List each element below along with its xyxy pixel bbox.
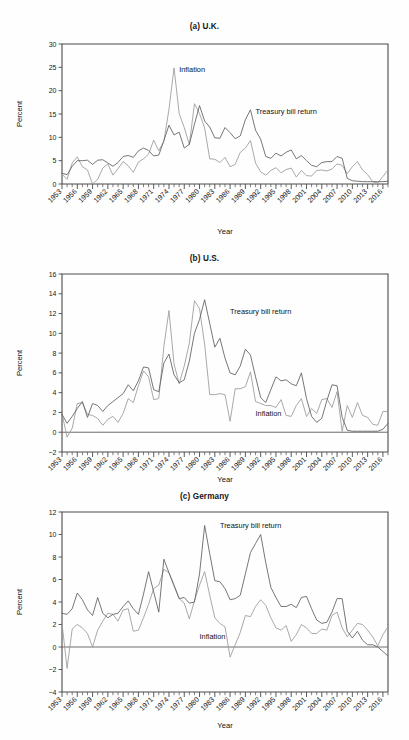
svg-text:1989: 1989 (229, 455, 247, 473)
svg-text:1962: 1962 (92, 695, 110, 713)
svg-text:25: 25 (49, 64, 57, 71)
svg-text:1974: 1974 (153, 695, 171, 713)
svg-text:1980: 1980 (183, 695, 201, 713)
svg-text:1971: 1971 (137, 695, 155, 713)
svg-text:1998: 1998 (275, 455, 293, 473)
svg-text:4: 4 (53, 389, 57, 396)
svg-text:1965: 1965 (107, 695, 125, 713)
svg-text:1953: 1953 (46, 187, 64, 205)
svg-text:2001: 2001 (290, 455, 308, 473)
svg-text:30: 30 (49, 41, 57, 48)
series-line-treasury-bill-return (62, 300, 388, 432)
svg-text:1995: 1995 (260, 455, 278, 473)
series-annotation: Inflation (200, 632, 226, 641)
svg-text:1974: 1974 (153, 187, 171, 205)
svg-text:1998: 1998 (275, 187, 293, 205)
svg-text:10: 10 (49, 134, 57, 141)
svg-text:1977: 1977 (168, 187, 186, 205)
svg-text:0: 0 (53, 429, 57, 436)
svg-text:1986: 1986 (214, 187, 232, 205)
series-annotation: Treasury bill return (220, 521, 281, 530)
chart-panel-uk: (a) U.K. 0510152025301953195619591962196… (0, 22, 409, 254)
series-line-inflation (62, 569, 388, 668)
series-annotation: Inflation (179, 65, 205, 74)
svg-text:1962: 1962 (92, 187, 110, 205)
svg-text:1989: 1989 (229, 695, 247, 713)
svg-text:1965: 1965 (107, 187, 125, 205)
chart-panel-germany: (c) Germany −4−2024681012195319561959196… (0, 492, 409, 740)
svg-text:10: 10 (49, 330, 57, 337)
svg-text:2007: 2007 (321, 455, 339, 473)
svg-text:2004: 2004 (306, 187, 324, 205)
svg-text:2016: 2016 (367, 455, 385, 473)
svg-text:1998: 1998 (275, 695, 293, 713)
svg-text:10: 10 (49, 531, 57, 538)
svg-text:0: 0 (53, 644, 57, 651)
svg-text:1980: 1980 (183, 187, 201, 205)
svg-text:12: 12 (49, 310, 57, 317)
svg-text:1995: 1995 (260, 187, 278, 205)
svg-text:2004: 2004 (306, 455, 324, 473)
svg-text:1974: 1974 (153, 455, 171, 473)
svg-text:1971: 1971 (137, 187, 155, 205)
x-axis-label: Year (217, 227, 233, 236)
svg-text:2013: 2013 (351, 695, 369, 713)
svg-text:2013: 2013 (351, 455, 369, 473)
svg-text:20: 20 (49, 87, 57, 94)
svg-text:1977: 1977 (168, 455, 186, 473)
series-annotation: Treasury bill return (256, 107, 317, 116)
svg-text:1965: 1965 (107, 455, 125, 473)
svg-text:1971: 1971 (137, 455, 155, 473)
y-axis-label: Percent (15, 100, 24, 127)
svg-text:8: 8 (53, 350, 57, 357)
chart-us: −202468101214161953195619591962196519681… (0, 254, 409, 492)
svg-text:1983: 1983 (199, 455, 217, 473)
svg-text:2007: 2007 (321, 695, 339, 713)
svg-text:8: 8 (53, 554, 57, 561)
svg-text:1968: 1968 (122, 187, 140, 205)
svg-text:−2: −2 (49, 666, 57, 673)
svg-text:1962: 1962 (92, 455, 110, 473)
svg-text:2001: 2001 (290, 695, 308, 713)
svg-text:14: 14 (49, 290, 57, 297)
svg-text:2004: 2004 (306, 695, 324, 713)
svg-text:2010: 2010 (336, 695, 354, 713)
svg-text:1959: 1959 (76, 695, 94, 713)
svg-text:1977: 1977 (168, 695, 186, 713)
svg-text:1968: 1968 (122, 455, 140, 473)
svg-text:5: 5 (53, 157, 57, 164)
svg-text:−2: −2 (49, 449, 57, 456)
svg-text:1968: 1968 (122, 695, 140, 713)
chart-panel-us: (b) U.S. −202468101214161953195619591962… (0, 254, 409, 492)
svg-text:6: 6 (53, 576, 57, 583)
svg-text:4: 4 (53, 599, 57, 606)
series-annotation: Treasury bill return (230, 307, 291, 316)
series-line-inflation (62, 301, 388, 437)
series-line-inflation (62, 68, 388, 184)
series-annotation: Inflation (256, 409, 282, 418)
chart-germany: −4−2024681012195319561959196219651968197… (0, 492, 409, 740)
svg-text:2013: 2013 (351, 187, 369, 205)
svg-text:0: 0 (53, 181, 57, 188)
svg-text:16: 16 (49, 271, 57, 278)
svg-text:1986: 1986 (214, 455, 232, 473)
svg-text:1953: 1953 (46, 455, 64, 473)
figure-page: (a) U.K. 0510152025301953195619591962196… (0, 0, 409, 740)
chart-uk: 0510152025301953195619591962196519681971… (0, 22, 409, 254)
svg-text:1983: 1983 (199, 187, 217, 205)
svg-text:1986: 1986 (214, 695, 232, 713)
svg-text:12: 12 (49, 509, 57, 516)
svg-text:1959: 1959 (76, 187, 94, 205)
svg-text:15: 15 (49, 111, 57, 118)
svg-text:1980: 1980 (183, 455, 201, 473)
y-axis-label: Percent (15, 588, 24, 615)
x-axis-label: Year (217, 475, 233, 484)
svg-text:1959: 1959 (76, 455, 94, 473)
svg-text:2010: 2010 (336, 187, 354, 205)
svg-text:2016: 2016 (367, 187, 385, 205)
svg-text:1995: 1995 (260, 695, 278, 713)
svg-text:1992: 1992 (244, 455, 262, 473)
svg-text:2007: 2007 (321, 187, 339, 205)
svg-text:1953: 1953 (46, 695, 64, 713)
svg-text:2010: 2010 (336, 455, 354, 473)
